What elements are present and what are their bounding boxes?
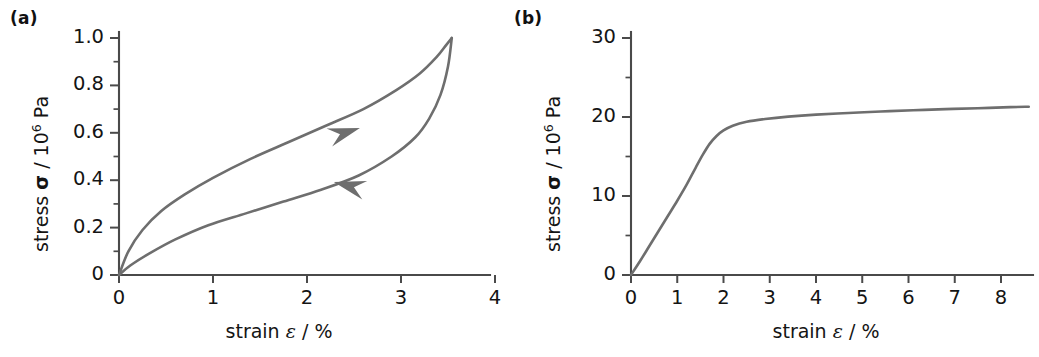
strain-symbol: ε bbox=[833, 320, 843, 342]
stress-symbol: σ bbox=[30, 175, 52, 190]
exponent: 6 bbox=[29, 124, 44, 132]
panel-a-x-ticklabel: 3 bbox=[376, 286, 426, 309]
panel-a-y-ticklabel: 1.0 bbox=[28, 25, 104, 48]
panel-a-x-ticklabel: 1 bbox=[188, 286, 238, 309]
panel-b-x-ticklabel: 2 bbox=[699, 286, 749, 309]
panel-b-x-ticklabel: 1 bbox=[652, 286, 702, 309]
panel-b-curve-stress-strain bbox=[631, 107, 1029, 275]
panel-b-y-axis-title: stress σ / 106 Pa bbox=[542, 96, 564, 252]
panel-a-curve-loading bbox=[119, 38, 452, 275]
panel-a-y-axis-title: stress σ / 106 Pa bbox=[30, 96, 52, 252]
panel-b-x-axis-title: strain ε / % bbox=[706, 320, 946, 342]
panel-b-x-ticklabel: 4 bbox=[791, 286, 841, 309]
panel-b-x-ticklabel: 5 bbox=[837, 286, 887, 309]
panel-b-x-ticklabel: 3 bbox=[745, 286, 795, 309]
panel-b-x-ticklabel: 7 bbox=[930, 286, 980, 309]
panel-a-y-ticklabel: 0 bbox=[28, 262, 104, 285]
exponent: 6 bbox=[541, 124, 556, 132]
stress-symbol: σ bbox=[542, 175, 564, 190]
panel-b: (b) 0102030 012345678 strain ε / % stres… bbox=[500, 0, 1039, 357]
panel-b-y-ticklabel: 30 bbox=[540, 25, 616, 48]
panel-b-x-ticklabel: 6 bbox=[884, 286, 934, 309]
panel-a-arrow-loading bbox=[327, 128, 360, 147]
panel-b-y-ticklabel: 0 bbox=[540, 262, 616, 285]
panel-a-x-ticklabel: 0 bbox=[94, 286, 144, 309]
panel-a-curve-unloading bbox=[119, 38, 452, 275]
panel-a-x-axis-title: strain ε / % bbox=[159, 320, 399, 342]
panel-a-y-ticklabel: 0.8 bbox=[28, 72, 104, 95]
panel-a-x-ticklabel: 2 bbox=[282, 286, 332, 309]
stress-strain-figure: (a) 00.20.40.60.81.0 01234 strain ε / % … bbox=[0, 0, 1039, 357]
panel-b-x-ticklabel: 8 bbox=[976, 286, 1026, 309]
strain-symbol: ε bbox=[286, 320, 296, 342]
panel-a: (a) 00.20.40.60.81.0 01234 strain ε / % … bbox=[0, 0, 500, 357]
panel-b-x-ticklabel: 0 bbox=[606, 286, 656, 309]
panel-a-arrow-unloading bbox=[334, 181, 367, 199]
